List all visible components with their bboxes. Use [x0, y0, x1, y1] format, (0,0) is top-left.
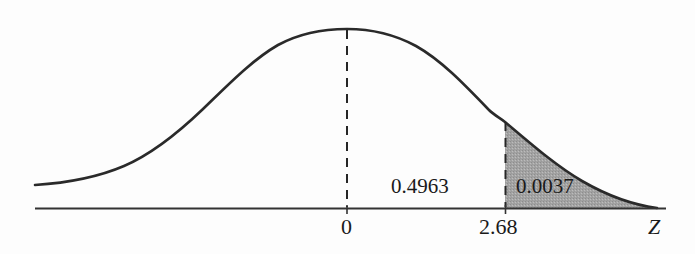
body-area-label: 0.4963 [391, 176, 449, 197]
normal-distribution-figure: 0.4963 0.0037 0 2.68 Z [0, 0, 695, 254]
tail-area-label: 0.0037 [516, 176, 574, 197]
axis-variable-label: Z [648, 216, 660, 238]
tick-label-critical-value: 2.68 [479, 216, 518, 238]
tick-label-mean: 0 [341, 216, 352, 238]
